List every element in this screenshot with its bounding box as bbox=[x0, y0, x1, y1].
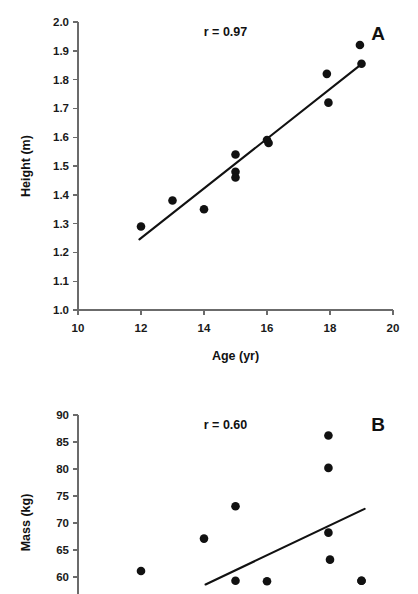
panel-a-data-point bbox=[356, 41, 365, 50]
panel-a-y-tick-label: 1.2 bbox=[53, 246, 69, 258]
panel-b-y-tick-label: 80 bbox=[56, 463, 69, 475]
panel-b-y-tick-label: 70 bbox=[56, 517, 69, 529]
panel-a-x-tick-label: 10 bbox=[72, 322, 85, 334]
panel-b-y-tick-label: 65 bbox=[56, 544, 69, 556]
panel-a-x-tick-label: 20 bbox=[387, 322, 400, 334]
two-panel-scatter-figure: 1.01.11.21.31.41.51.61.71.81.92.01012141… bbox=[0, 0, 418, 594]
panel-a-data-point bbox=[324, 98, 333, 107]
panel-a-y-tick-label: 1.5 bbox=[53, 160, 70, 172]
panel-a-data-point bbox=[264, 139, 273, 148]
panel-b-y-tick-label: 60 bbox=[56, 571, 69, 583]
panel-a-axes bbox=[78, 22, 393, 310]
panel-a-y-tick-label: 1.4 bbox=[53, 189, 70, 201]
panel-b-data-point bbox=[231, 576, 240, 585]
panel-a-height-vs-age: 1.01.11.21.31.41.51.61.71.81.92.01012141… bbox=[0, 0, 418, 372]
panel-a-trendline bbox=[139, 63, 363, 240]
panel-b-y-tick-label: 75 bbox=[56, 490, 69, 502]
panel-a-y-tick-label: 1.9 bbox=[53, 45, 69, 57]
panel-a-x-tick-label: 16 bbox=[261, 322, 274, 334]
panel-b-data-point bbox=[357, 576, 366, 585]
panel-a-x-tick-label: 14 bbox=[198, 322, 211, 334]
panel-a-x-tick-label: 12 bbox=[135, 322, 148, 334]
panel-b-plot: 60657075808590r = 0.60BMass (kg) bbox=[0, 372, 418, 594]
panel-a-y-tick-label: 1.3 bbox=[53, 218, 69, 230]
panel-a-x-axis-title: Age (yr) bbox=[212, 349, 259, 363]
panel-a-correlation-annotation: r = 0.97 bbox=[204, 25, 247, 39]
panel-a-data-point bbox=[323, 70, 332, 79]
panel-b-mass-vs-age: 60657075808590r = 0.60BMass (kg) bbox=[0, 372, 418, 594]
panel-a-data-point bbox=[137, 222, 146, 231]
panel-a-y-tick-label: 1.8 bbox=[53, 74, 70, 86]
panel-b-trendline bbox=[206, 509, 365, 585]
panel-a-x-tick-label: 18 bbox=[324, 322, 337, 334]
panel-b-data-point bbox=[231, 502, 240, 511]
panel-b-y-tick-label: 85 bbox=[56, 436, 69, 448]
panel-b-data-point bbox=[200, 534, 209, 543]
panel-b-data-point bbox=[326, 555, 335, 564]
panel-b-letter: B bbox=[371, 414, 385, 435]
panel-a-y-tick-label: 1.1 bbox=[53, 275, 70, 287]
panel-b-data-point bbox=[324, 431, 333, 440]
panel-a-data-point bbox=[231, 173, 240, 182]
panel-a-y-tick-label: 2.0 bbox=[53, 16, 69, 28]
panel-b-correlation-annotation: r = 0.60 bbox=[204, 418, 247, 432]
panel-b-y-tick-label: 90 bbox=[56, 409, 69, 421]
panel-a-y-tick-label: 1.0 bbox=[53, 304, 69, 316]
panel-a-y-tick-label: 1.7 bbox=[53, 102, 69, 114]
panel-b-data-point bbox=[324, 464, 333, 473]
panel-a-y-tick-label: 1.6 bbox=[53, 131, 69, 143]
panel-b-data-point bbox=[137, 567, 146, 576]
panel-b-y-axis-title: Mass (kg) bbox=[19, 494, 33, 552]
panel-a-data-point bbox=[231, 150, 240, 159]
panel-a-plot: 1.01.11.21.31.41.51.61.71.81.92.01012141… bbox=[0, 0, 418, 372]
panel-a-data-point bbox=[357, 59, 366, 68]
panel-a-letter: A bbox=[371, 23, 385, 44]
panel-a-data-point bbox=[168, 196, 177, 205]
panel-b-data-point bbox=[263, 577, 272, 586]
panel-b-data-point bbox=[324, 528, 333, 537]
panel-a-y-axis-title: Height (m) bbox=[19, 135, 33, 197]
panel-a-data-point bbox=[200, 205, 209, 214]
